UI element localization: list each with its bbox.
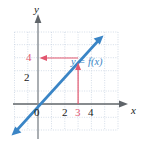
graph-canvas bbox=[0, 0, 141, 145]
function-line bbox=[12, 36, 104, 136]
x-axis bbox=[13, 101, 128, 108]
graph-figure: y x 4 2 0 2 3 4 y = f(x) bbox=[0, 0, 141, 145]
y-axis bbox=[35, 14, 42, 139]
horizontal-annotation-arrow bbox=[40, 55, 79, 61]
vertical-annotation-arrow bbox=[75, 63, 81, 105]
